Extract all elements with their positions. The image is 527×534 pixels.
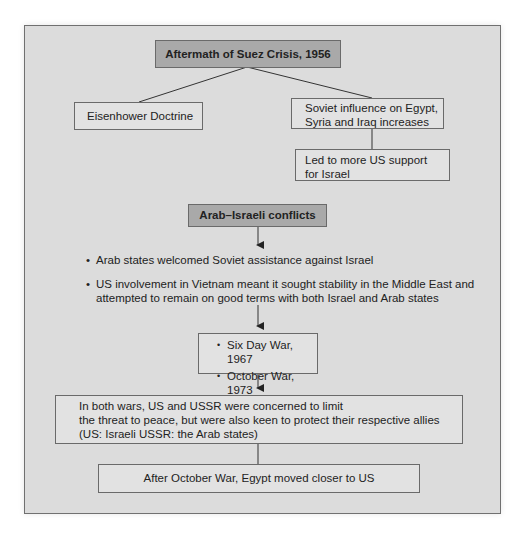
us-support-line-2: for Israel — [305, 167, 449, 181]
bullet-icon: • — [86, 253, 90, 267]
wars-box: Six Day War, 1967 October War, 1973 — [198, 333, 318, 374]
arab-israeli-title: Arab–Israeli conflicts — [199, 209, 315, 221]
egypt-label: After October War, Egypt moved closer to… — [144, 472, 375, 484]
eisenhower-label: Eisenhower Doctrine — [87, 110, 193, 122]
war-october: October War, 1973 — [217, 369, 317, 397]
bullet-icon: • — [86, 277, 90, 291]
both-wars-line-1: In both wars, US and USSR were concerned… — [79, 399, 462, 413]
both-wars-line-2: the threat to peace, but were also keen … — [79, 413, 462, 427]
war-six-day: Six Day War, 1967 — [217, 338, 317, 366]
soviet-line-1: Soviet influence on Egypt, — [305, 101, 443, 115]
bullet-arab-states: • Arab states welcomed Soviet assistance… — [96, 253, 373, 267]
wars-list: Six Day War, 1967 October War, 1973 — [217, 338, 317, 397]
both-wars-line-3: (US: Israeli USSR: the Arab states) — [79, 427, 462, 441]
soviet-line-2: Syria and Iraq increases — [305, 115, 443, 129]
both-wars-box: In both wars, US and USSR were concerned… — [55, 395, 463, 444]
diagram-title: Aftermath of Suez Crisis, 1956 — [165, 48, 331, 60]
egypt-box: After October War, Egypt moved closer to… — [98, 464, 420, 493]
connector-lines — [0, 0, 527, 534]
us-support-box: Led to more US support for Israel — [295, 149, 450, 181]
title-box: Aftermath of Suez Crisis, 1956 — [155, 40, 341, 68]
us-support-line-1: Led to more US support — [305, 153, 449, 167]
eisenhower-box: Eisenhower Doctrine — [74, 102, 203, 130]
arab-israeli-box: Arab–Israeli conflicts — [188, 204, 327, 227]
bullet-vietnam: • US involvement in Vietnam meant it sou… — [96, 277, 474, 305]
soviet-influence-box: Soviet influence on Egypt, Syria and Ira… — [291, 98, 444, 129]
